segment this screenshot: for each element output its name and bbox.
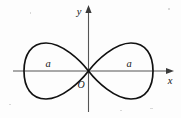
right-lobe-label-a: a (126, 58, 131, 69)
left-lobe-label-a: a (45, 58, 50, 69)
x-axis-label: x (167, 75, 173, 86)
y-axis-arrowhead (85, 5, 91, 13)
y-axis-label: y (76, 6, 82, 17)
lemniscate-figure: y x O a a (0, 0, 181, 118)
figure-canvas: y x O a a (0, 0, 181, 118)
x-axis-arrowhead (166, 68, 174, 74)
origin-label: O (77, 79, 84, 90)
